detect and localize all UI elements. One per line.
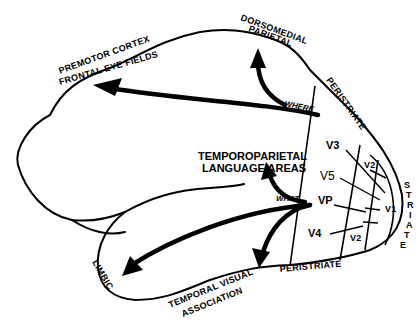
svg-text:T: T bbox=[406, 190, 412, 200]
what-pathway-limbic bbox=[130, 205, 310, 266]
v5-label: V5 bbox=[320, 169, 335, 183]
v2-bottom-label: V2 bbox=[350, 233, 362, 243]
temporoparietal-label-line2: LANGUAGE AREAS bbox=[202, 162, 306, 174]
frontal-lower-contour bbox=[72, 220, 125, 234]
v1-label: V1 bbox=[385, 204, 397, 214]
diagram-svg: PREMOTOR CORTEX FRONTAL EYE FIELDS DORSO… bbox=[0, 0, 420, 329]
where-arrowhead-dorsal bbox=[250, 48, 266, 68]
brain-diagram: PREMOTOR CORTEX FRONTAL EYE FIELDS DORSO… bbox=[0, 0, 420, 329]
v1-arrow-mid bbox=[365, 208, 380, 210]
peristriate-bottom-label: PERISTRIATE bbox=[279, 259, 342, 274]
where-arrowhead-frontal bbox=[93, 78, 122, 96]
v1-arrow-low bbox=[363, 222, 378, 223]
svg-text:E: E bbox=[400, 240, 406, 250]
peristriate-top-label: PERISTRIATE bbox=[324, 75, 368, 132]
what-arrowhead-temporal bbox=[252, 248, 270, 268]
where-pathway-dorsal bbox=[258, 62, 285, 105]
limbic-label: LIMBIC bbox=[90, 258, 115, 292]
svg-text:I: I bbox=[409, 210, 412, 220]
svg-text:A: A bbox=[406, 220, 413, 230]
v3-link bbox=[346, 150, 385, 193]
svg-text:S: S bbox=[404, 180, 410, 190]
vp-label: VP bbox=[318, 194, 333, 206]
sylvian-fissure bbox=[125, 184, 244, 212]
v4-label: V4 bbox=[308, 227, 322, 239]
what-label: WHAT bbox=[276, 194, 301, 203]
svg-text:R: R bbox=[407, 200, 414, 210]
svg-text:T: T bbox=[404, 230, 410, 240]
temporoparietal-label-line1: TEMPOROPARIETAL bbox=[198, 150, 307, 162]
v3-label: V3 bbox=[326, 139, 339, 151]
v2-top-label: V2 bbox=[364, 160, 376, 170]
